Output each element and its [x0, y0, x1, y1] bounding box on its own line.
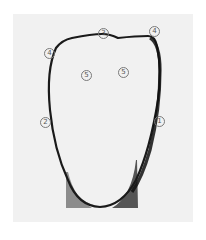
label-5-left: 5	[81, 70, 92, 81]
label-4-left: 4	[44, 48, 55, 59]
label-1-right: 1	[154, 116, 165, 127]
label-5-right: 5	[118, 67, 129, 78]
tooth-outline	[49, 34, 160, 207]
root-shading-left	[66, 172, 92, 208]
label-2-left: 2	[40, 117, 51, 128]
label-4-right: 4	[149, 26, 160, 37]
label-3-top: 3	[98, 28, 109, 39]
